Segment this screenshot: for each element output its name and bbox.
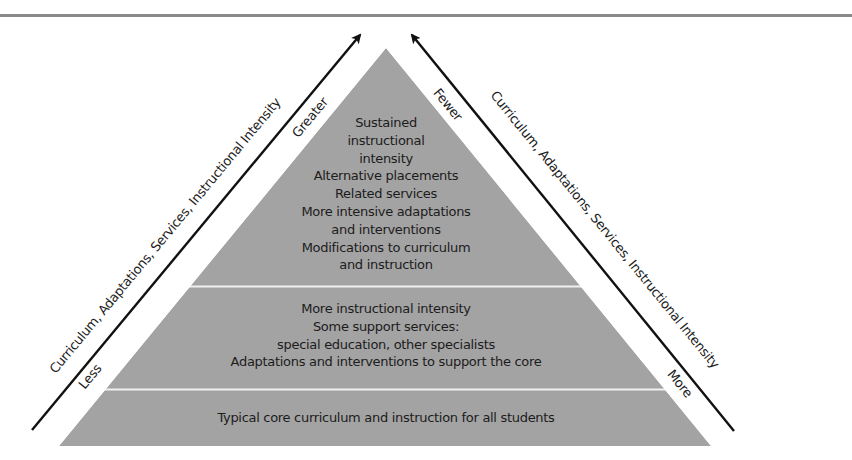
tier-top-line: Related services bbox=[286, 185, 486, 203]
tier-top-line: Modifications to curriculum bbox=[286, 239, 486, 257]
tier-middle-line: Adaptations and interventions to support… bbox=[186, 353, 586, 371]
tier-top-line: and instruction bbox=[286, 256, 486, 274]
tier-middle-line: More instructional intensity bbox=[186, 300, 586, 318]
tier-top-line: instructional bbox=[286, 132, 486, 150]
tier-middle-line: special education, other specialists bbox=[186, 336, 586, 354]
tier-top-line: intensity bbox=[286, 150, 486, 168]
tier-bottom-line: Typical core curriculum and instruction … bbox=[136, 409, 636, 427]
tier-top-line: More intensive adaptations bbox=[286, 203, 486, 221]
tier-middle-line: Some support services: bbox=[186, 318, 586, 336]
tier-top-text: Sustained instructional intensity Altern… bbox=[286, 114, 486, 274]
tier-bottom-text: Typical core curriculum and instruction … bbox=[136, 409, 636, 427]
tier-top-line: and interventions bbox=[286, 221, 486, 239]
tier-middle-text: More instructional intensity Some suppor… bbox=[186, 300, 586, 371]
tier-top-line: Alternative placements bbox=[286, 167, 486, 185]
header-rule-overlay bbox=[0, 14, 852, 17]
